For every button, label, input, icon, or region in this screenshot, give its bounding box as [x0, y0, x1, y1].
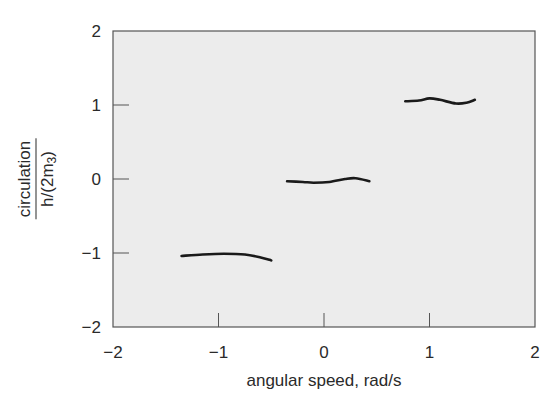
y-axis-label: circulation h/(2m3) — [15, 139, 62, 220]
y-tick-label: 0 — [92, 170, 101, 189]
y-axis-label-numerator: circulation — [15, 139, 37, 220]
x-axis-label: angular speed, rad/s — [247, 371, 402, 390]
y-tick-label: −2 — [82, 318, 101, 337]
chart: −2−1012 −2−1012 angular speed, rad/s — [0, 0, 557, 408]
y-tick-label: −1 — [82, 244, 101, 263]
x-tick-label: 0 — [319, 343, 328, 362]
denominator-prefix: h/(2m — [38, 163, 57, 206]
y-tick-labels: −2−1012 — [82, 22, 101, 337]
x-tick-label: −2 — [103, 343, 122, 362]
y-axis-label-denominator: h/(2m3) — [37, 151, 62, 207]
denominator-suffix: ) — [38, 151, 57, 157]
denominator-subscript: 3 — [45, 157, 59, 164]
x-tick-label: −1 — [209, 343, 228, 362]
x-tick-label: 2 — [530, 343, 539, 362]
x-tick-label: 1 — [425, 343, 434, 362]
x-tick-labels: −2−1012 — [103, 343, 539, 362]
plot-area — [113, 31, 535, 327]
y-tick-label: 2 — [92, 22, 101, 41]
y-tick-label: 1 — [92, 96, 101, 115]
